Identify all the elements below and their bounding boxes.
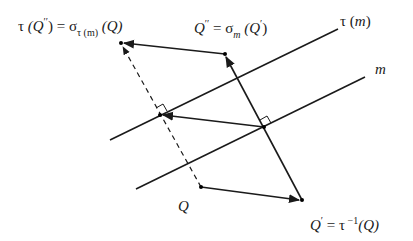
label-tau-m: τ (m) xyxy=(340,14,371,29)
label-q-prime: Q′ = τ −1(Q) xyxy=(310,218,379,233)
point-tau-q-double-prime xyxy=(119,41,123,45)
translation-arrow-top xyxy=(124,43,225,54)
translation-arrow-bottom xyxy=(201,187,299,200)
diagram-canvas xyxy=(0,0,413,241)
point-foot-m xyxy=(262,125,266,129)
label-q-double-prime: Q′′ = σm (Q′) xyxy=(194,21,267,36)
dashed-segment-q-to-tau-q2 xyxy=(123,47,201,187)
point-foot-tau-m xyxy=(158,113,162,117)
label-tau-q-double-prime: τ (Q′′) = στ (m) (Q) xyxy=(18,19,123,34)
right-angle-marker-m xyxy=(260,116,271,123)
point-q-prime xyxy=(300,198,304,202)
right-angle-marker-tau-m xyxy=(156,104,167,111)
label-q: Q xyxy=(178,199,189,214)
point-q-double-prime xyxy=(223,52,227,56)
label-m: m xyxy=(375,62,386,77)
line-m xyxy=(136,77,365,189)
translation-arrow-middle xyxy=(163,115,264,127)
point-q xyxy=(199,185,203,189)
